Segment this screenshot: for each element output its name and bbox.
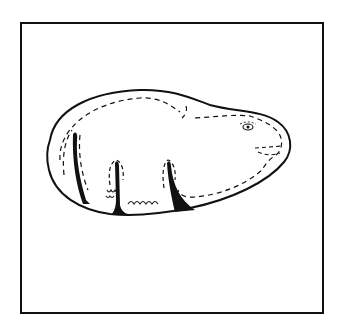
stone-illustration <box>0 0 342 331</box>
figure-canvas: Line drawing of an animal figure (bear-l… <box>0 0 342 331</box>
eye-pupil <box>247 126 250 129</box>
